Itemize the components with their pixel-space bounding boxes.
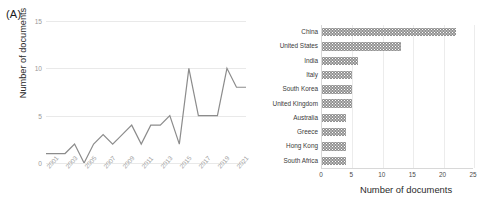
- panel-b-gridline: [474, 25, 475, 168]
- panel-b-x-tick-label: 15: [409, 171, 416, 178]
- panel-b-bar: [322, 142, 346, 150]
- panel-b-bar: [322, 157, 346, 165]
- panel-b-bar: [322, 28, 456, 36]
- panel-b-category-label: Greece: [297, 125, 318, 139]
- panel-b-bar: [322, 71, 352, 79]
- panel-b-x-axis: 0510152025: [321, 168, 473, 180]
- figure-container: (A) Number of documents 051015 200120032…: [0, 0, 501, 213]
- panel-b-bar-row: Greece: [322, 125, 346, 139]
- panel-b-category-label: United States: [280, 39, 318, 53]
- panel-b-bar-row: United Kingdom: [322, 97, 352, 111]
- panel-b-bar-row: Italy: [322, 68, 352, 82]
- panel-b-gridline: [444, 25, 445, 168]
- panel-b-x-tick-label: 0: [319, 171, 323, 178]
- panel-b-bar: [322, 85, 352, 93]
- panel-b-category-label: India: [304, 54, 318, 68]
- panel-b-category-label: Italy: [306, 68, 318, 82]
- panel-b-x-tick-label: 5: [350, 171, 354, 178]
- panel-b-bar: [322, 57, 358, 65]
- panel-b-bar-chart: (B) ChinaUnited StatesIndiaItalySouth Ko…: [252, 0, 501, 213]
- panel-b-bar-row: China: [322, 25, 456, 39]
- panel-a-line-series: [46, 21, 246, 163]
- panel-b-bar-row: United States: [322, 39, 401, 53]
- panel-b-gridline: [413, 25, 414, 168]
- panel-a-y-tick-label: 15: [35, 18, 42, 25]
- panel-a-y-tick-label: 10: [35, 65, 42, 72]
- panel-a-y-axis-title: Number of documents: [18, 0, 28, 113]
- panel-b-bar-row: Hong Kong: [322, 139, 346, 153]
- panel-b-plot-area: ChinaUnited StatesIndiaItalySouth KoreaU…: [321, 25, 473, 168]
- panel-b-bar-row: South Korea: [322, 82, 352, 96]
- panel-b-bar: [322, 42, 401, 50]
- panel-b-category-label: China: [301, 25, 318, 39]
- panel-b-bar: [322, 128, 346, 136]
- panel-b-x-tick-label: 25: [469, 171, 476, 178]
- panel-b-x-tick-label: 20: [439, 171, 446, 178]
- panel-a-x-axis-ticks: 2001200320052007200920112013201520172019…: [46, 163, 246, 197]
- panel-b-x-axis-title: Number of documents: [321, 184, 491, 195]
- panel-b-category-label: South Africa: [284, 154, 318, 168]
- panel-a-y-tick-label: 5: [38, 112, 42, 119]
- panel-a-y-tick-label: 0: [38, 160, 42, 167]
- panel-b-bar: [322, 114, 346, 122]
- panel-b-category-label: Hong Kong: [286, 139, 318, 153]
- panel-a-plot-area: 051015: [46, 21, 246, 163]
- panel-b-bar-row: Australia: [322, 111, 346, 125]
- panel-b-category-label: Australia: [293, 111, 318, 125]
- panel-a-line-chart: (A) Number of documents 051015 200120032…: [0, 0, 252, 213]
- panel-b-category-label: South Korea: [282, 82, 318, 96]
- panel-b-bar-row: South Africa: [322, 154, 346, 168]
- panel-b-category-label: United Kingdom: [273, 97, 318, 111]
- panel-b-bar-row: India: [322, 54, 358, 68]
- panel-b-bar: [322, 99, 352, 107]
- panel-b-x-tick-label: 10: [378, 171, 385, 178]
